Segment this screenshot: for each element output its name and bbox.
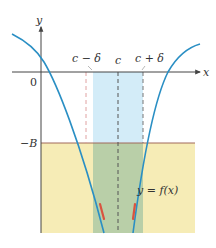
infinite-limit-diagram: y x 0 c − δ c c + δ −B y = f(x) xyxy=(0,0,216,248)
c-plus-delta-label: c + δ xyxy=(135,52,164,65)
c-minus-delta-label: c − δ xyxy=(72,52,101,65)
neg-b-label: −B xyxy=(20,137,37,150)
c-plus-delta-leader xyxy=(142,66,145,70)
c-minus-delta-leader xyxy=(88,66,92,70)
function-label: y = f(x) xyxy=(136,184,178,197)
y-axis-label: y xyxy=(35,14,43,27)
x-axis-label: x xyxy=(203,66,210,79)
c-label: c xyxy=(115,54,121,67)
origin-label: 0 xyxy=(30,76,37,89)
